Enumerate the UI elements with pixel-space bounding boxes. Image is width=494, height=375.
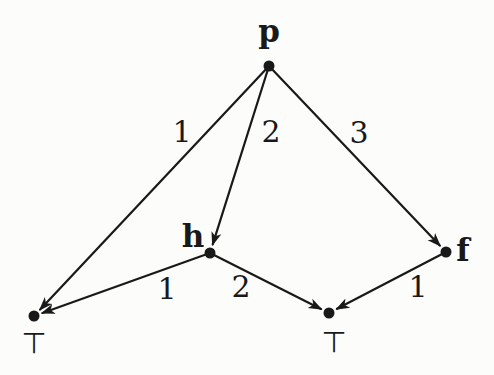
node-label-p: p bbox=[258, 13, 280, 49]
edge-weight-h-to-top-left: 1 bbox=[157, 271, 176, 306]
node-label-top-left: ⊤ bbox=[21, 326, 46, 360]
graph-canvas: 123121 phf⊤⊤ bbox=[0, 0, 494, 375]
node-dot-f bbox=[441, 247, 452, 258]
figure: 123121 phf⊤⊤ bbox=[0, 0, 494, 375]
edge-weight-p-to-h: 2 bbox=[261, 114, 280, 149]
edge-f-to-top-right bbox=[337, 252, 446, 309]
edge-weight-p-to-top-left: 1 bbox=[172, 114, 191, 149]
node-dot-top-left bbox=[29, 311, 40, 322]
edge-p-to-f bbox=[269, 66, 440, 245]
node-label-h: h bbox=[182, 218, 205, 254]
edge-h-to-top-right bbox=[210, 253, 321, 309]
node-label-f: f bbox=[456, 232, 471, 268]
edge-weight-p-to-f: 3 bbox=[349, 115, 368, 150]
edge-layer: 123121 bbox=[40, 66, 446, 313]
edge-weight-f-to-top-right: 1 bbox=[408, 269, 427, 304]
node-dot-p bbox=[264, 61, 275, 72]
node-layer: phf⊤⊤ bbox=[21, 13, 471, 360]
edge-weight-h-to-top-right: 2 bbox=[231, 269, 250, 304]
node-dot-top-right bbox=[324, 308, 335, 319]
edge-h-to-top-left bbox=[42, 253, 210, 313]
edge-p-to-h bbox=[213, 66, 269, 244]
node-label-top-right: ⊤ bbox=[321, 325, 346, 359]
node-dot-h bbox=[205, 248, 216, 259]
